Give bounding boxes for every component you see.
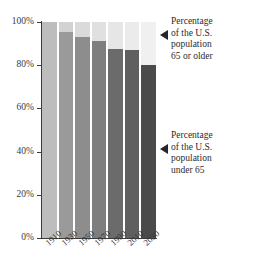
bar-column[interactable] [59, 22, 74, 238]
bar-column[interactable] [92, 22, 107, 238]
y-axis-tick-label: 100% [0, 17, 34, 27]
y-axis-tick-label: 40% [0, 147, 34, 157]
annotation-under-65-label: Percentage of the U.S. population under … [171, 130, 213, 176]
y-axis-tick-mark [37, 195, 41, 196]
bar-segment-under-65 [75, 37, 90, 238]
bar-segment-65-or-older [108, 22, 123, 49]
bar-segment-under-65 [59, 32, 74, 238]
y-axis-tick-label: 60% [0, 103, 34, 113]
y-axis-tick-label: 80% [0, 60, 34, 70]
y-axis-tick-mark [37, 152, 41, 153]
bar-segment-under-65 [92, 41, 107, 238]
bar-segment-65-or-older [75, 22, 90, 37]
bar-segment-under-65 [141, 65, 156, 238]
bar-column[interactable] [75, 22, 90, 238]
y-axis-tick-mark [37, 22, 41, 23]
y-axis-tick-mark [37, 238, 41, 239]
bar-segment-65-or-older [59, 22, 74, 32]
bar-segment-under-65 [108, 49, 123, 238]
y-axis-tick-label: 0% [0, 233, 34, 243]
bar-segment-65-or-older [141, 22, 156, 65]
bar-column[interactable] [141, 22, 156, 238]
bar-column[interactable] [42, 22, 57, 238]
left-triangle-icon [160, 144, 168, 154]
bar-group [42, 22, 156, 238]
bar-segment-65-or-older [125, 22, 140, 50]
bar-column[interactable] [125, 22, 140, 238]
y-axis-tick-mark [37, 108, 41, 109]
bar-segment-under-65 [42, 22, 57, 238]
annotation-65-or-older: Percentage of the U.S. population 65 or … [160, 16, 213, 62]
y-axis-tick-mark [37, 65, 41, 66]
annotation-under-65: Percentage of the U.S. population under … [160, 130, 213, 176]
left-triangle-icon [160, 30, 168, 40]
plot-area [42, 22, 156, 238]
bar-column[interactable] [108, 22, 123, 238]
bar-segment-65-or-older [92, 22, 107, 41]
y-axis-tick-label: 20% [0, 190, 34, 200]
annotation-65-or-older-label: Percentage of the U.S. population 65 or … [171, 16, 213, 62]
bar-segment-under-65 [125, 50, 140, 238]
stacked-bar-chart: 0%20%40%60%80%100% 191019301950197019902… [0, 0, 254, 275]
